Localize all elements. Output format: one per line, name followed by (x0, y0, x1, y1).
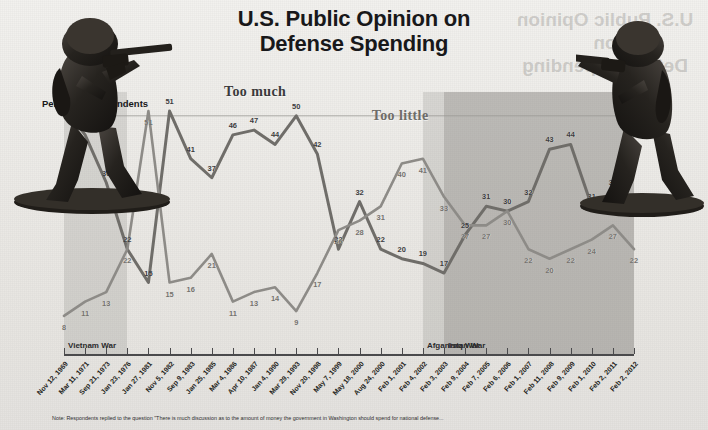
data-point-label: 42 (313, 139, 321, 148)
x-axis-tick (317, 348, 318, 354)
x-axis-tick (360, 348, 361, 354)
x-axis-tick (486, 348, 487, 354)
x-axis-tick (528, 348, 529, 354)
data-point-label: 32 (524, 187, 532, 196)
data-point-label: 47 (250, 116, 258, 125)
data-point-label: 22 (123, 256, 131, 265)
data-point-label: 14 (271, 294, 279, 303)
infographic-canvas: U.S. Public Opinion on Defense Spending … (0, 0, 708, 430)
data-point-label: 32 (355, 187, 363, 196)
x-axis-tick (233, 348, 234, 354)
data-point-label: 16 (186, 284, 194, 293)
data-point-label: 8 (62, 322, 66, 331)
page-title-line1: U.S. Public Opinion on (238, 6, 471, 31)
data-point-label: 24 (588, 246, 596, 255)
data-point-label: 27 (609, 232, 617, 241)
data-point-label: 26 (334, 237, 342, 246)
data-point-label: 15 (144, 268, 152, 277)
x-axis-tick (507, 348, 508, 354)
war-band-label-0: Vietnam War (68, 341, 116, 350)
data-point-label: 33 (440, 203, 448, 212)
data-point-label: 30 (503, 197, 511, 206)
data-point-label: 31 (376, 213, 384, 222)
data-point-label: 22 (376, 235, 384, 244)
x-axis-tick (127, 348, 128, 354)
x-axis-tick (592, 348, 593, 354)
x-axis-tick (254, 348, 255, 354)
war-band-label-2: Iraq War (448, 341, 480, 350)
data-point-label: 22 (566, 256, 574, 265)
data-point-label: 43 (545, 135, 553, 144)
x-axis-tick (571, 348, 572, 354)
data-point-label: 17 (313, 280, 321, 289)
data-point-label: 25 (461, 220, 469, 229)
data-point-label: 11 (81, 308, 89, 317)
data-point-label: 22 (630, 256, 638, 265)
data-point-label: 41 (419, 165, 427, 174)
x-axis-tick (338, 348, 339, 354)
data-point-label: 9 (294, 318, 298, 327)
data-point-label: 11 (229, 308, 237, 317)
x-axis-tick (402, 348, 403, 354)
page-title-line2: Defense Spending (0, 31, 708, 56)
x-axis-tick (85, 348, 86, 354)
footnote: Note: Respondents replied to the questio… (52, 415, 692, 422)
data-point-label: 28 (355, 227, 363, 236)
data-point-label: 13 (250, 299, 258, 308)
data-point-label: 40 (398, 170, 406, 179)
x-axis-tick (381, 348, 382, 354)
x-axis-tick (191, 348, 192, 354)
x-axis-tick (550, 348, 551, 354)
data-point-label: 27 (482, 232, 490, 241)
data-point-label: 44 (566, 130, 574, 139)
x-axis: Nov 12, 1969Mar 11, 1971Sep 21, 1973Jan … (64, 354, 634, 356)
x-axis-tick (275, 348, 276, 354)
data-point-label: 37 (208, 163, 216, 172)
data-point-label: 17 (440, 259, 448, 268)
data-point-label: 22 (123, 235, 131, 244)
x-axis-tick (64, 348, 65, 354)
x-axis-tick (634, 348, 635, 354)
data-point-label: 50 (292, 101, 300, 110)
x-axis-tick (106, 348, 107, 354)
x-axis-tick (296, 348, 297, 354)
data-point-label: 31 (482, 192, 490, 201)
x-axis-tick (170, 348, 171, 354)
data-point-label: 13 (102, 299, 110, 308)
data-point-label: 27 (461, 232, 469, 241)
x-axis-tick (423, 348, 424, 354)
x-axis-tick (613, 348, 614, 354)
data-point-label: 22 (524, 256, 532, 265)
x-axis-tick (465, 348, 466, 354)
data-point-label: 46 (229, 120, 237, 129)
x-axis-tick (444, 348, 445, 354)
x-axis-tick (148, 348, 149, 354)
data-point-label: 20 (398, 244, 406, 253)
x-axis-tick (212, 348, 213, 354)
data-point-label: 19 (419, 249, 427, 258)
page-title: U.S. Public Opinion on Defense Spending (0, 6, 708, 56)
series-annotation-too-little: Too little (372, 108, 429, 124)
data-point-label: 21 (208, 260, 216, 269)
series-annotation-too-much: Too much (224, 84, 286, 100)
data-point-label: 30 (503, 218, 511, 227)
data-point-label: 44 (271, 130, 279, 139)
data-point-label: 15 (165, 289, 173, 298)
data-point-label: 20 (545, 265, 553, 274)
data-point-label: 41 (186, 144, 194, 153)
